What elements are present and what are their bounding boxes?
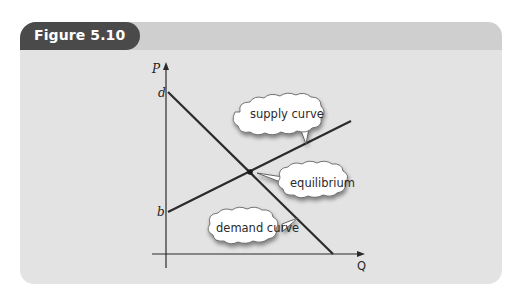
p-axis-label: P	[151, 62, 161, 76]
d-tick-label: d	[158, 86, 166, 100]
q-axis-arrow-icon	[357, 251, 365, 257]
b-tick-label: b	[157, 205, 165, 219]
q-axis-label: Q	[357, 259, 366, 273]
p-axis-arrow-icon	[163, 62, 169, 70]
equilibrium-point	[247, 169, 253, 175]
supply-callout-text: supply curve	[250, 107, 324, 121]
supply-demand-diagram: P d b Q supply curve equilibrium demand …	[0, 0, 526, 299]
equilibrium-callout-text: equilibrium	[290, 176, 355, 190]
demand-callout-text: demand curve	[216, 221, 299, 235]
